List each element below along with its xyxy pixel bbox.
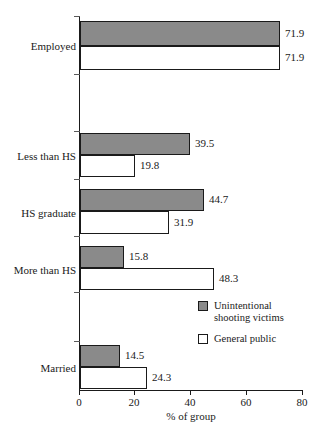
bar-hs-graduate-public (80, 211, 169, 234)
legend-entry-general-public: General public (198, 333, 284, 345)
bar-hs-graduate-victims (80, 189, 204, 211)
legend-swatch-white-square-icon (198, 334, 208, 344)
x-tick-60 (246, 390, 247, 395)
bar-value-married-victims: 14.5 (125, 349, 144, 362)
plot-area: 0 20 40 60 80 % of group Employed 71.9 7… (0, 0, 330, 434)
chart-legend: Unintentional shooting victims General p… (198, 300, 284, 345)
x-axis-line (79, 390, 303, 391)
x-tick-80 (302, 390, 303, 395)
y-tick-label-less-than-hs: Less than HS (17, 150, 76, 163)
y-tick-2 (74, 131, 80, 132)
x-tick-label-60: 60 (226, 396, 266, 409)
bar-married-public (80, 367, 147, 389)
x-tick-20 (134, 390, 135, 395)
x-tick-40 (190, 390, 191, 395)
y-tick-label-married: Married (41, 362, 76, 375)
y-tick-5 (74, 292, 80, 293)
bar-employed-victims (80, 21, 280, 46)
bar-value-employed-victims: 71.9 (285, 27, 304, 40)
legend-swatch-gray-square-icon (198, 301, 208, 311)
bar-less-than-hs-public (80, 155, 135, 177)
x-tick-label-40: 40 (170, 396, 210, 409)
x-tick-label-20: 20 (114, 396, 154, 409)
legend-label-general-public: General public (214, 333, 276, 345)
y-tick-1 (74, 74, 80, 75)
bar-value-less-than-hs-victims: 39.5 (195, 137, 214, 150)
x-tick-label-0: 0 (59, 396, 99, 409)
y-tick-4 (74, 236, 80, 237)
x-axis-label: % of group (79, 410, 303, 423)
bar-value-hs-graduate-public: 31.9 (174, 216, 193, 229)
bar-more-than-hs-victims (80, 246, 124, 268)
y-tick-label-hs-graduate: HS graduate (21, 207, 76, 220)
bar-less-than-hs-victims (80, 133, 190, 155)
bar-value-hs-graduate-victims: 44.7 (209, 193, 228, 206)
legend-entry-unintentional-shooting-victims: Unintentional shooting victims (198, 300, 284, 324)
bar-value-married-public: 24.3 (152, 371, 171, 384)
y-tick-6 (74, 341, 80, 342)
bar-value-employed-public: 71.9 (285, 51, 304, 64)
bar-value-more-than-hs-public: 48.3 (219, 272, 238, 285)
bar-employed-public (80, 46, 280, 70)
y-tick-label-employed: Employed (31, 40, 76, 53)
bar-married-victims (80, 345, 120, 367)
x-tick-0 (79, 390, 80, 395)
y-tick-label-more-than-hs: More than HS (14, 264, 76, 277)
legend-label-unintentional-shooting-victims: Unintentional shooting victims (214, 300, 284, 324)
bar-chart-figure: 0 20 40 60 80 % of group Employed 71.9 7… (0, 0, 330, 434)
x-tick-label-80: 80 (282, 396, 322, 409)
y-tick-0 (74, 16, 80, 17)
y-tick-3 (74, 179, 80, 180)
bar-more-than-hs-public (80, 268, 214, 290)
bar-value-more-than-hs-victims: 15.8 (129, 250, 148, 263)
bar-value-less-than-hs-public: 19.8 (140, 159, 159, 172)
